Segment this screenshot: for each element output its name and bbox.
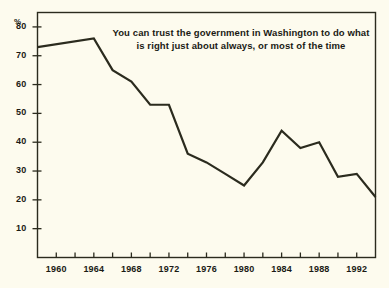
y-axis-tick-label: 60 (7, 79, 27, 89)
x-axis-tick-label: 1988 (299, 264, 339, 274)
x-axis-tick-label: 1972 (149, 264, 189, 274)
x-axis-tick-label: 1992 (337, 264, 377, 274)
trust-in-government-line-chart: % 1020304050607080 196019641968197219761… (0, 0, 389, 288)
x-axis-tick-label: 1976 (187, 264, 227, 274)
annotation-line-2: is right just about always, or most of t… (107, 39, 375, 52)
y-axis-tick-label: 50 (7, 107, 27, 117)
x-axis-tick-label: 1964 (74, 264, 114, 274)
y-axis-tick-label: 80 (7, 21, 27, 31)
x-axis-tick-label: 1980 (224, 264, 264, 274)
x-axis-tick-label: 1984 (262, 264, 302, 274)
y-axis-tick-label: 40 (7, 136, 27, 146)
y-axis-tick-label: 10 (7, 223, 27, 233)
x-axis-tick-label: 1968 (111, 264, 151, 274)
annotation-line-1: You can trust the government in Washingt… (107, 26, 375, 39)
y-axis-tick-label: 70 (7, 50, 27, 60)
x-axis-tick-label: 1960 (36, 264, 76, 274)
y-axis-tick-label: 30 (7, 165, 27, 175)
chart-annotation-text: You can trust the government in Washingt… (107, 26, 375, 52)
y-axis-tick-label: 20 (7, 194, 27, 204)
